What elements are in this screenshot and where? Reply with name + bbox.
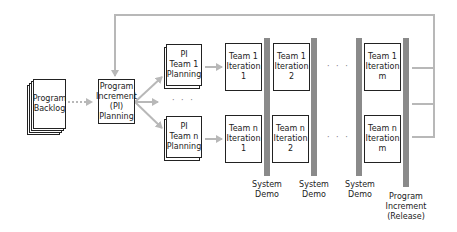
teamn-iteration-2-label: Team n Iteration 2 [274, 124, 308, 154]
teamn-iteration-m-box: Team n Iteration m [364, 115, 401, 163]
teamn-iteration-2-box: Team n Iteration 2 [272, 115, 309, 163]
teamn-iteration-1-label: Team n Iteration 1 [227, 124, 261, 154]
team1-iteration-1-box: Team 1 Iteration 1 [225, 43, 262, 91]
team1-iteration-ellipsis: · · · [327, 62, 350, 71]
teamn-planning-label: PI Team n Planning [167, 122, 201, 152]
team1-iteration-1-label: Team 1 Iteration 1 [227, 52, 261, 82]
release-label: Program Increment (Release) [381, 192, 431, 222]
pi-planning-label: Program Increment (PI) Planning [96, 82, 137, 122]
team1-iteration-2-label: Team 1 Iteration 2 [275, 52, 309, 82]
planning-ellipsis: · · · [172, 96, 195, 105]
pi-planning-box: Program Increment (PI) Planning [98, 79, 135, 124]
program-backlog-box: Program Backlog [33, 79, 66, 129]
pi-to-teamn-arrow [135, 102, 162, 128]
system-demo-bar-1 [264, 38, 270, 176]
team1-planning-box: PI Team 1 Planning [166, 44, 202, 86]
feedback-stub-bottom [412, 68, 434, 137]
system-demo-bar-2 [311, 38, 317, 176]
system-demo-label-1: System Demo [247, 180, 287, 200]
release-bar [403, 38, 409, 187]
program-backlog-label: Program Backlog [33, 94, 67, 114]
teamn-iteration-ellipsis: · · · [327, 133, 350, 142]
teamn-iteration-1-box: Team n Iteration 1 [225, 115, 262, 163]
system-demo-bar-3 [356, 38, 362, 176]
team1-planning-label: PI Team 1 Planning [167, 50, 201, 80]
pi-to-team1-arrow [135, 77, 162, 102]
teamn-planning-box: PI Team n Planning [166, 116, 202, 158]
team1-iteration-2-box: Team 1 Iteration 2 [273, 43, 310, 91]
system-demo-label-3: System Demo [340, 180, 380, 200]
system-demo-label-2: System Demo [294, 180, 334, 200]
teamn-iteration-m-label: Team n Iteration m [366, 124, 400, 154]
team1-iteration-m-label: Team 1 Iteration m [366, 52, 400, 82]
team1-iteration-m-box: Team 1 Iteration m [364, 43, 401, 91]
